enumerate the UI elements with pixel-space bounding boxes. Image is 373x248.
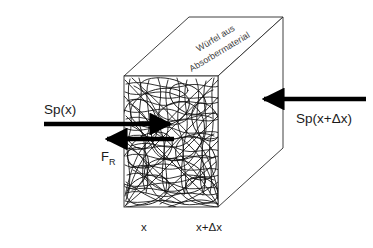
label-axis-x-plus-dx: x+Δx — [196, 222, 222, 234]
friction-force-symbol: F — [101, 149, 109, 164]
friction-force-subscript: R — [109, 157, 116, 167]
label-flux-in-right: Sp(x+Δx) — [296, 112, 352, 126]
label-flux-in-left: Sp(x) — [44, 103, 76, 117]
absorber-cube-figure: Sp(x) Sp(x+Δx) FR Würfel aus Absorbermat… — [0, 0, 373, 248]
label-friction-force: FR — [101, 150, 115, 167]
label-axis-x: x — [141, 222, 147, 234]
